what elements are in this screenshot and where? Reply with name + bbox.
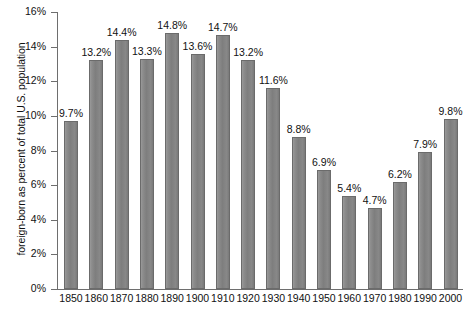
bar-value-label: 9.8% [430, 105, 472, 117]
y-tick-12 [51, 81, 57, 82]
bar [241, 60, 255, 289]
bar [191, 54, 205, 289]
bar [216, 35, 230, 289]
y-tick-4 [51, 220, 57, 221]
y-tick-16 [51, 12, 57, 13]
bar-group: 13.6% [185, 12, 211, 289]
bar-group: 11.6% [260, 12, 286, 289]
bar-chart: foreign-born as percent of total U.S. po… [0, 0, 473, 310]
bar-group: 9.8% [438, 12, 464, 289]
bar [266, 88, 280, 289]
y-tick-label: 2% [4, 247, 46, 259]
x-tick-label: 2000 [434, 292, 468, 304]
bar-group: 14.8% [159, 12, 185, 289]
bar-group: 6.2% [387, 12, 413, 289]
y-tick-label: 14% [4, 40, 46, 52]
y-tick-0 [51, 289, 57, 290]
bar-group: 8.8% [286, 12, 312, 289]
bar-group: 13.2% [83, 12, 109, 289]
bar [89, 60, 103, 289]
y-tick-label: 10% [4, 109, 46, 121]
plot-area: 9.7%13.2%14.4%13.3%14.8%13.6%14.7%13.2%1… [58, 12, 463, 289]
bar [444, 119, 458, 289]
y-tick-6 [51, 185, 57, 186]
bar [368, 208, 382, 289]
bar [140, 59, 154, 289]
y-tick-label: 4% [4, 213, 46, 225]
y-tick-label: 16% [4, 5, 46, 17]
bar-group: 7.9% [412, 12, 438, 289]
y-tick-8 [51, 151, 57, 152]
y-tick-label: 8% [4, 144, 46, 156]
y-tick-label: 6% [4, 178, 46, 190]
bar-group: 4.7% [362, 12, 388, 289]
bar [393, 182, 407, 289]
bar-group: 13.2% [235, 12, 261, 289]
bar-group: 5.4% [336, 12, 362, 289]
bar [342, 196, 356, 289]
y-tick-2 [51, 254, 57, 255]
x-axis-line [57, 289, 463, 290]
bar [165, 33, 179, 289]
y-tick-label: 12% [4, 74, 46, 86]
bar [115, 40, 129, 289]
bar-group: 6.9% [311, 12, 337, 289]
y-tick-14 [51, 47, 57, 48]
y-tick-label: 0% [4, 282, 46, 294]
bar [418, 152, 432, 289]
bar-group: 13.3% [134, 12, 160, 289]
bar [64, 121, 78, 289]
